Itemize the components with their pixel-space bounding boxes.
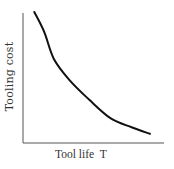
tooling-cost-curve: [34, 12, 150, 134]
plot-area: [0, 0, 174, 169]
y-axis-label: Tooling cost: [4, 41, 17, 111]
y-axis-label-wrap: Tooling cost: [3, 46, 17, 106]
x-axis-label: Tool life T: [55, 148, 107, 160]
chart: Tooling cost Tool life T: [0, 0, 174, 169]
